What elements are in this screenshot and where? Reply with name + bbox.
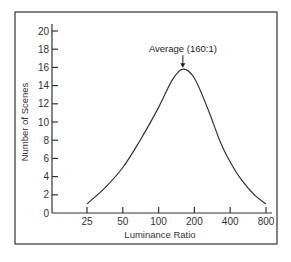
y-axis: 02468101214161820 — [38, 24, 58, 219]
x-tick-label: 100 — [150, 216, 167, 227]
y-tick-label: 16 — [38, 62, 50, 73]
chart-frame — [15, 12, 277, 244]
y-tick-label: 10 — [38, 117, 50, 128]
y-axis-title: Number of Scenes — [19, 82, 30, 161]
y-tick-label: 2 — [43, 189, 49, 200]
x-tick-label: 800 — [258, 216, 275, 227]
x-tick-label: 25 — [81, 216, 93, 227]
x-axis-title: Luminance Ratio — [124, 229, 195, 240]
arrow-down-icon — [180, 63, 185, 68]
chart: 02468101214161820 2550100200400800 Numbe… — [0, 0, 291, 262]
data-curve — [87, 69, 266, 204]
annotation-group: Average (160:1) — [149, 43, 217, 68]
x-tick-label: 200 — [186, 216, 203, 227]
y-tick-label: 4 — [43, 171, 49, 182]
x-tick-label: 50 — [117, 216, 129, 227]
y-tick-label: 18 — [38, 44, 50, 55]
y-tick-label: 6 — [43, 153, 49, 164]
x-tick-label: 400 — [222, 216, 239, 227]
y-tick-label: 20 — [38, 26, 50, 37]
y-tick-label: 8 — [43, 135, 49, 146]
y-tick-label: 12 — [38, 98, 50, 109]
y-tick-label: 14 — [38, 80, 50, 91]
x-axis: 2550100200400800 — [52, 207, 275, 227]
annotation-label: Average (160:1) — [149, 43, 217, 54]
y-tick-label: 0 — [43, 208, 49, 219]
